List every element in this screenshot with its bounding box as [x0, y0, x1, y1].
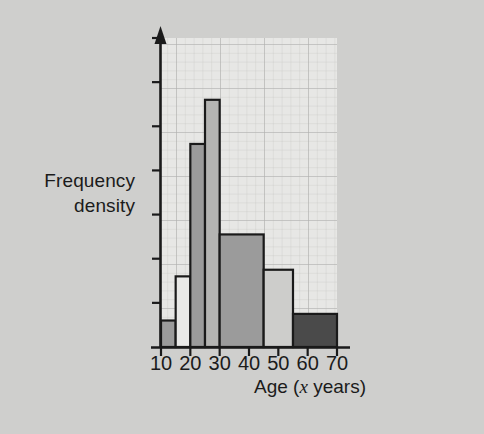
- x-axis-label-before: Age (: [254, 376, 299, 397]
- y-axis-arrow-icon: [155, 26, 167, 44]
- y-axis-label-line2: density: [10, 193, 135, 218]
- x-axis-label-after: years): [308, 376, 366, 397]
- x-axis-label-variable: x: [299, 376, 307, 397]
- y-axis-label: Frequency density: [10, 168, 135, 218]
- histogram-bar: [220, 234, 264, 347]
- histogram-bar: [190, 144, 205, 347]
- x-axis-tick-label: 70: [317, 352, 357, 375]
- histogram-bar: [161, 321, 176, 347]
- histogram-bar: [293, 314, 337, 347]
- histogram-bar: [264, 270, 293, 347]
- histogram-bar: [205, 100, 220, 347]
- histogram-bar: [176, 276, 191, 347]
- x-axis-label: Age (x years): [180, 376, 440, 398]
- histogram-figure: Frequency density Age (x years) 10203040…: [0, 0, 484, 434]
- y-axis-label-line1: Frequency: [10, 168, 135, 193]
